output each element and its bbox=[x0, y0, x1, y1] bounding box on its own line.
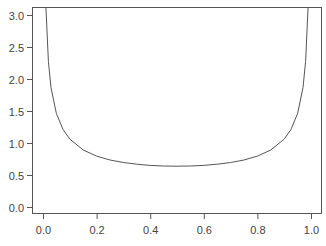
x-tick-label: 0.8 bbox=[250, 224, 265, 236]
y-tick-label: 2.5 bbox=[9, 42, 24, 54]
x-tick-label: 0.4 bbox=[143, 224, 158, 236]
y-tick-label: 0.5 bbox=[9, 170, 24, 182]
y-tick-label: 0.0 bbox=[9, 202, 24, 214]
plot-frame bbox=[33, 8, 322, 214]
density-curve bbox=[44, 0, 309, 166]
x-tick-label: 1.0 bbox=[304, 224, 319, 236]
y-tick-label: 3.0 bbox=[9, 10, 24, 22]
line-chart: 0.00.51.01.52.02.53.0 0.00.20.40.60.81.0 bbox=[0, 0, 326, 246]
x-tick-label: 0.0 bbox=[36, 224, 51, 236]
y-tick-label: 1.5 bbox=[9, 106, 24, 118]
x-tick-label: 0.2 bbox=[89, 224, 104, 236]
y-tick-label: 2.0 bbox=[9, 74, 24, 86]
y-tick-label: 1.0 bbox=[9, 138, 24, 150]
x-axis: 0.00.20.40.60.81.0 bbox=[36, 214, 319, 236]
x-tick-label: 0.6 bbox=[197, 224, 212, 236]
y-axis: 0.00.51.01.52.02.53.0 bbox=[9, 10, 32, 214]
